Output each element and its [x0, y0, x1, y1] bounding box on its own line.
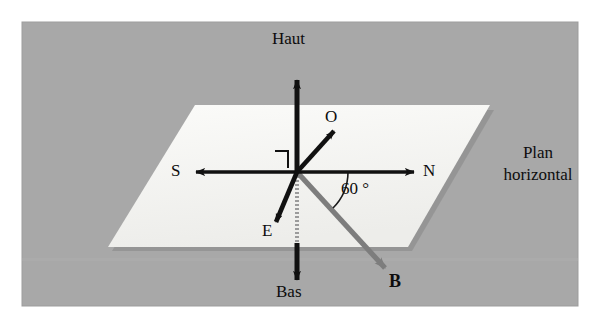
label-haut: Haut [272, 30, 305, 48]
label-vector-B: B [389, 272, 602, 291]
label-bas: Bas [276, 283, 302, 301]
figure-root: Haut Bas S N O E 60 ° Plan horizontal B [0, 0, 602, 329]
label-plan-line2: horizontal [478, 166, 598, 184]
scan-band [22, 258, 578, 261]
label-plan-line1: Plan [490, 144, 586, 162]
label-ouest: O [325, 108, 337, 126]
label-nord: N [423, 162, 435, 180]
label-sud: S [171, 162, 180, 180]
label-vector-B-text: B [389, 271, 401, 291]
label-est: E [262, 222, 272, 240]
label-angle-60: 60 ° [341, 180, 369, 198]
